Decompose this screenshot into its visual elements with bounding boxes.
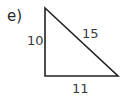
side-vertical-label: 10 [27,34,44,47]
side-base-label: 11 [72,82,89,95]
side-hypotenuse-label: 15 [82,27,99,40]
right-triangle [0,0,134,103]
